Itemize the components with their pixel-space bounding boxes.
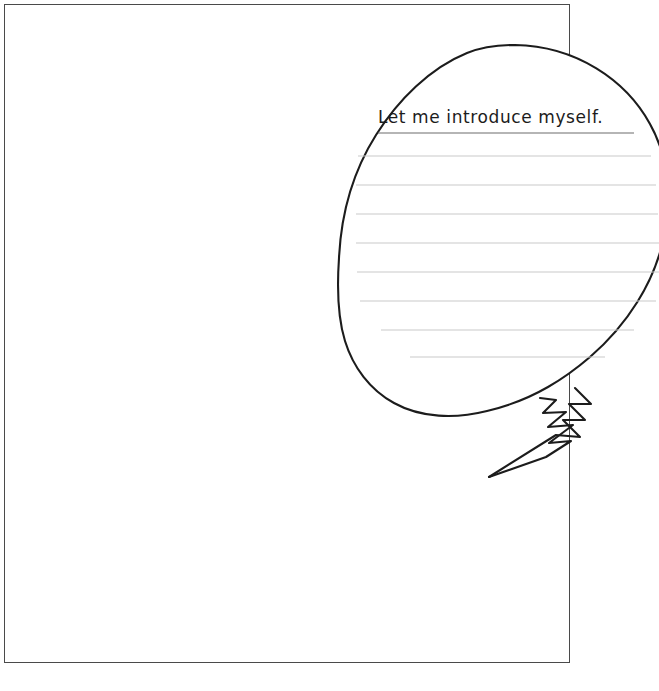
speech-bubble-heading: Let me introduce myself.	[378, 107, 636, 127]
worksheet-page: Let me introduce myself.	[0, 0, 659, 691]
page-border	[4, 4, 570, 663]
